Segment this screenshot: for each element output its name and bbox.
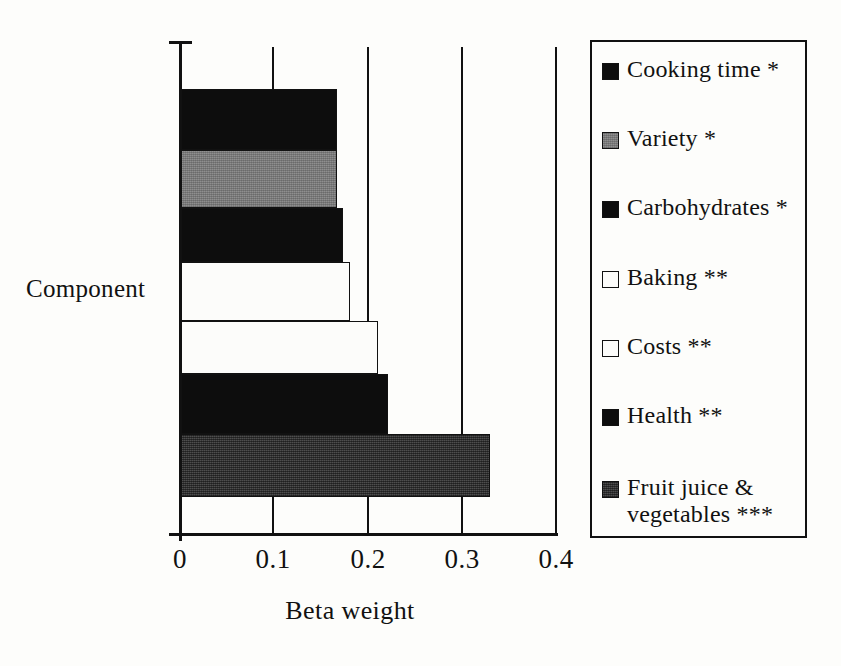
legend-item-label: Baking **	[627, 264, 728, 291]
legend-item-label: Costs **	[627, 333, 712, 360]
xtick-label-1: 0.1	[233, 543, 313, 575]
legend-item-carbohydrates[interactable]: Carbohydrates *	[602, 194, 807, 221]
legend-swatch-icon	[602, 409, 619, 426]
xtick-label-2: 0.2	[328, 543, 408, 575]
legend-item-label: Carbohydrates *	[627, 194, 788, 221]
category-axis	[179, 533, 558, 536]
legend-item-health[interactable]: Health **	[602, 402, 807, 429]
bar-carbohydrates	[179, 208, 343, 262]
xtick-label-4: 0.4	[516, 543, 596, 575]
bar-variety	[179, 150, 337, 208]
legend-item-fruit-juice[interactable]: Fruit juice & vegetables ***	[602, 474, 807, 528]
legend-swatch-icon	[602, 201, 619, 218]
bar-health	[179, 374, 388, 434]
bar-cooking-time	[179, 89, 337, 150]
bar-baking	[179, 262, 350, 321]
gridline-0-4	[555, 47, 557, 535]
legend-swatch-icon	[602, 271, 619, 288]
legend-item-cooking-time[interactable]: Cooking time *	[602, 56, 807, 83]
legend-swatch-icon	[602, 481, 619, 498]
x-axis-title: Beta weight	[0, 596, 700, 626]
legend-item-label: Health **	[627, 402, 723, 429]
legend-item-costs[interactable]: Costs **	[602, 333, 807, 360]
bar-costs	[179, 321, 378, 374]
plot-area	[179, 47, 556, 535]
bar-fruit-juice	[179, 434, 490, 497]
value-axis	[179, 41, 182, 541]
legend-item-label: Variety *	[627, 125, 716, 152]
legend-swatch-icon	[602, 63, 619, 80]
legend-item-baking[interactable]: Baking **	[602, 264, 807, 291]
bar-chart: 0 0.1 0.2 0.3 0.4 Component Beta weight …	[0, 0, 841, 666]
legend-item-label: Fruit juice & vegetables ***	[627, 474, 807, 528]
y-axis-title: Component	[26, 275, 145, 303]
legend-item-label: Cooking time *	[627, 56, 779, 83]
legend-box: Cooking time * Variety * Carbohydrates *…	[590, 40, 807, 538]
xtick-label-0: 0	[140, 543, 220, 575]
legend-item-variety[interactable]: Variety *	[602, 125, 807, 152]
xtick-label-3: 0.3	[422, 543, 502, 575]
legend-swatch-icon	[602, 340, 619, 357]
axis-tick-top	[169, 41, 192, 44]
legend-swatch-icon	[602, 132, 619, 149]
